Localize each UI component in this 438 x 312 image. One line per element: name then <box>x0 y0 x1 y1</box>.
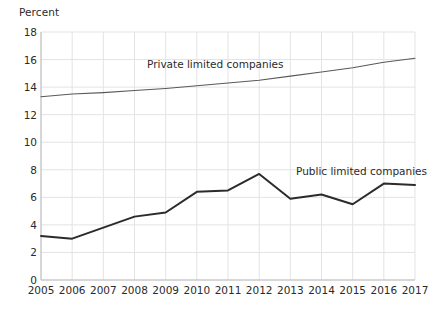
x-axis-tick-label: 2011 <box>215 284 242 296</box>
y-axis-tick-label: 4 <box>7 219 37 231</box>
x-axis-tick-label: 2007 <box>90 284 117 296</box>
y-axis-tick-label: 18 <box>7 26 37 38</box>
x-axis-tick-label: 2009 <box>152 284 179 296</box>
x-axis-tick-label: 2015 <box>339 284 366 296</box>
y-axis-tick-label: 6 <box>7 191 37 203</box>
x-axis-tick-label: 2017 <box>402 284 429 296</box>
y-axis-tick-label: 14 <box>7 81 37 93</box>
x-axis-tick-label: 2006 <box>59 284 86 296</box>
x-axis-tick-label: 2010 <box>183 284 210 296</box>
x-axis-tick-label: 2014 <box>308 284 335 296</box>
y-axis-tick-label: 8 <box>7 164 37 176</box>
line-chart: Percent 024681012141618 2005200620072008… <box>0 0 438 312</box>
x-axis-tick-label: 2008 <box>121 284 148 296</box>
x-axis-tick-label: 2012 <box>246 284 273 296</box>
series-label-private-limited-companies: Private limited companies <box>147 58 284 70</box>
y-axis-tick-label: 16 <box>7 54 37 66</box>
y-axis-tick-labels: 024681012141618 <box>4 0 37 312</box>
x-axis-tick-label: 2016 <box>370 284 397 296</box>
series-label-public-limited-companies: Public limited companies <box>296 165 427 177</box>
x-axis-tick-label: 2013 <box>277 284 304 296</box>
y-axis-tick-label: 12 <box>7 109 37 121</box>
y-axis-tick-label: 2 <box>7 246 37 258</box>
x-axis-tick-label: 2005 <box>28 284 55 296</box>
y-axis-tick-label: 10 <box>7 136 37 148</box>
